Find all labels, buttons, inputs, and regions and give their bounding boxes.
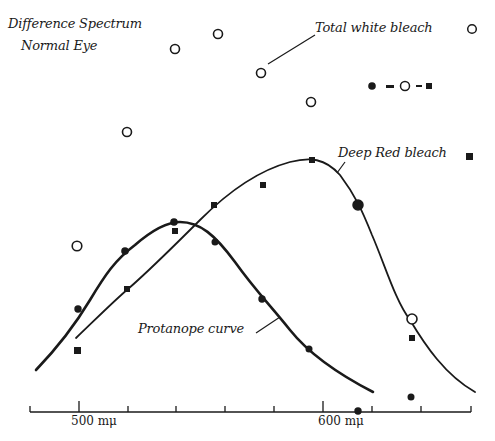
x-tick-label-500: 500 mμ (71, 414, 117, 428)
legend-open-circle-icon (401, 82, 410, 91)
deep-red-leader (337, 162, 345, 173)
deep-red-marker-icon (466, 153, 473, 160)
difference-spectrum-chart (0, 0, 495, 441)
deep-red-points (74, 157, 415, 354)
total-white-points (72, 30, 417, 325)
chart-title-line1: Difference Spectrum (8, 16, 142, 31)
total-white-label: Total white bleach (315, 20, 432, 35)
protanope-label: Protanope curve (138, 321, 244, 336)
difference-points (74, 218, 414, 414)
deep-red-curve (76, 159, 475, 392)
legend-square-icon (426, 83, 432, 89)
deep-red-circle-overlap (353, 200, 363, 210)
total-white-marker-icon (468, 25, 477, 34)
protanope-curve (36, 222, 373, 392)
x-tick-label-600: 600 mμ (318, 414, 364, 428)
total-white-leader (268, 35, 315, 64)
chart-title-line2: Normal Eye (21, 38, 97, 53)
x-axis (30, 401, 471, 412)
legend-filled-circle-icon (368, 82, 376, 90)
deep-red-label: Deep Red bleach (338, 145, 447, 160)
legend-equation (368, 82, 432, 91)
protanope-leader (256, 317, 280, 333)
